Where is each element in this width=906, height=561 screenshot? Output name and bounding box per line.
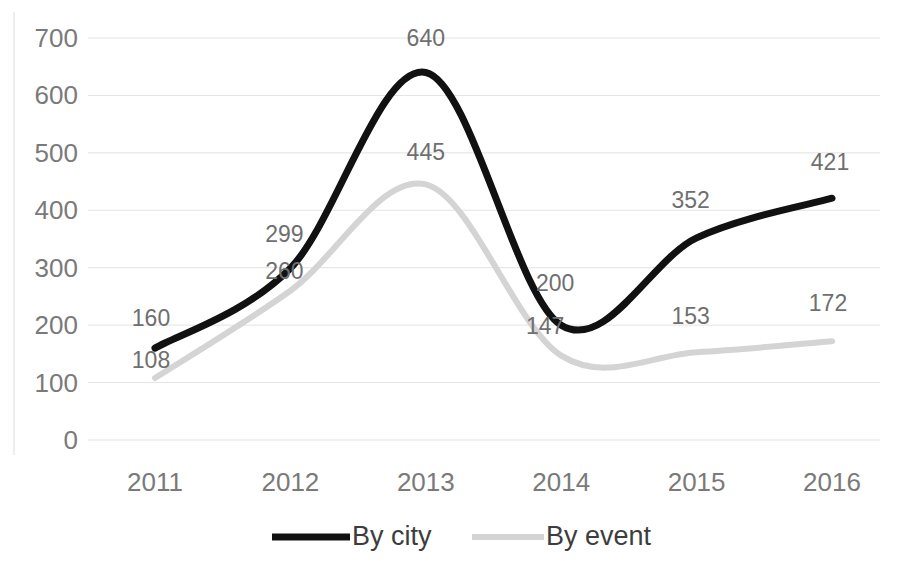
data-point-label: 445	[407, 139, 445, 165]
y-axis-tick-label: 500	[35, 138, 78, 168]
x-axis-tick-label: 2011	[127, 467, 183, 497]
chart-canvas: 0100200300400500600700 20112012201320142…	[0, 0, 906, 561]
y-axis-tick-label: 200	[35, 310, 78, 340]
y-axis-tick-label: 700	[35, 23, 78, 53]
data-point-label: 352	[671, 187, 709, 213]
data-point-label: 421	[811, 149, 849, 175]
x-axis-tick-label: 2015	[668, 467, 726, 497]
data-point-label: 200	[536, 270, 574, 296]
data-point-label: 299	[265, 221, 303, 247]
legend-label-by-event: By event	[546, 521, 652, 551]
data-point-label: 153	[671, 303, 709, 329]
legend-label-by-city: By city	[352, 521, 432, 551]
x-axis-tick-label: 2012	[261, 467, 319, 497]
y-axis-tick-label: 300	[35, 253, 78, 283]
y-axis-tick-label: 0	[64, 425, 78, 455]
data-point-label: 260	[265, 258, 303, 284]
data-point-label: 108	[132, 347, 170, 373]
y-axis-tick-label: 100	[35, 368, 78, 398]
data-point-label: 147	[526, 313, 564, 339]
data-point-label: 172	[809, 290, 847, 316]
x-axis-tick-label: 2014	[532, 467, 590, 497]
x-axis-tick-label: 2013	[397, 467, 455, 497]
x-axis-tick-label: 2016	[803, 467, 861, 497]
y-axis-tick-label: 600	[35, 80, 78, 110]
data-point-label: 640	[407, 25, 445, 51]
y-axis-tick-label: 400	[35, 195, 78, 225]
data-point-label: 160	[132, 305, 170, 331]
line-chart: 0100200300400500600700 20112012201320142…	[0, 0, 906, 561]
